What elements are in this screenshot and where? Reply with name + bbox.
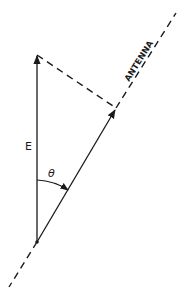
antenna-axis-lower	[9, 242, 37, 287]
antenna-axis-upper	[116, 13, 176, 108]
origin-point	[35, 240, 39, 244]
e-label: E	[25, 140, 32, 153]
antenna-label: ANTENNA	[122, 38, 155, 83]
antenna-field-diagram: E θ ANTENNA	[0, 0, 190, 297]
theta-label: θ	[48, 167, 55, 180]
projection-line	[37, 55, 116, 108]
angle-arc	[37, 180, 68, 190]
